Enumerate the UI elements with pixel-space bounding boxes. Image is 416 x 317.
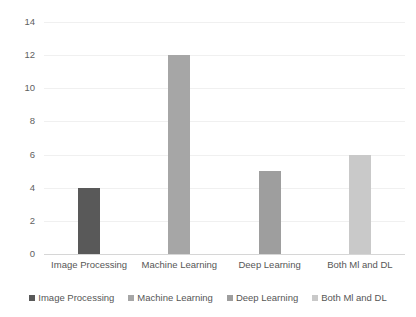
plot-area [44,22,405,254]
legend-item[interactable]: Image Processing [29,292,114,304]
legend-label: Machine Learning [137,292,213,304]
bar[interactable] [349,155,371,254]
bar[interactable] [78,188,100,254]
gridline-14 [44,22,405,23]
legend-label: Deep Learning [236,292,298,304]
legend-label: Both Ml and DL [321,292,386,304]
legend-item[interactable]: Machine Learning [128,292,213,304]
gridline-10 [44,88,405,89]
gridline-12 [44,55,405,56]
y-tick-label: 12 [24,50,35,60]
y-tick-label: 8 [30,116,35,126]
gridline-0 [44,254,405,255]
legend-swatch-icon [29,295,35,301]
bar[interactable] [168,55,190,254]
y-axis: 02468101214 [0,0,44,317]
bar-chart: 02468101214 Image ProcessingMachine Lear… [0,0,416,317]
x-axis: Image ProcessingMachine LearningDeep Lea… [44,258,405,276]
legend-swatch-icon [128,295,134,301]
y-tick-label: 0 [30,249,35,259]
y-tick-label: 6 [30,150,35,160]
x-tick-label: Both Ml and DL [327,258,392,271]
x-tick-label: Image Processing [51,258,127,271]
y-tick-label: 10 [24,83,35,93]
y-tick-label: 4 [30,183,35,193]
legend-swatch-icon [312,295,318,301]
legend-swatch-icon [227,295,233,301]
x-tick-label: Deep Learning [238,258,300,271]
y-tick-label: 2 [30,216,35,226]
legend-item[interactable]: Both Ml and DL [312,292,386,304]
legend-item[interactable]: Deep Learning [227,292,298,304]
chart-legend: Image ProcessingMachine LearningDeep Lea… [0,288,416,308]
y-tick-label: 14 [24,17,35,27]
x-tick-label: Machine Learning [142,258,218,271]
bar[interactable] [259,171,281,254]
legend-label: Image Processing [38,292,114,304]
gridline-8 [44,121,405,122]
